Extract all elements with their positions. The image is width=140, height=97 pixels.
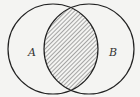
set-b-label: B bbox=[108, 46, 117, 59]
venn-diagram: A B bbox=[0, 0, 140, 97]
set-a-label: A bbox=[27, 46, 36, 59]
